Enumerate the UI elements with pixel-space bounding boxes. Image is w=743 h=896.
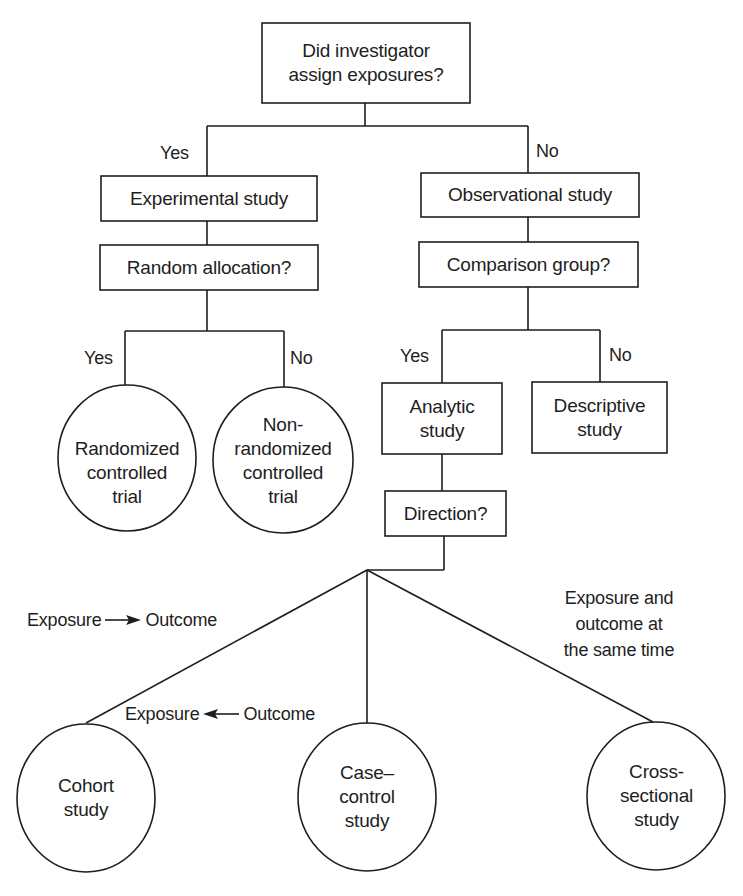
exposure-text: Exposure bbox=[27, 609, 101, 631]
comparison-group-box: Comparison group? bbox=[419, 242, 638, 287]
outcome-text: Outcome bbox=[243, 703, 315, 725]
non-randomized-controlled-trial-node: Non- randomized controlled trial bbox=[213, 387, 353, 533]
right-arrow-icon bbox=[104, 614, 142, 626]
outcome-text: Outcome bbox=[145, 609, 217, 631]
descriptive-study-box: Descriptive study bbox=[532, 382, 667, 453]
root-yes-label: Yes bbox=[160, 142, 189, 164]
outcome-to-exposure-label: Exposure Outcome bbox=[125, 703, 315, 725]
same-time-label: Exposure and outcome at the same time bbox=[549, 585, 689, 663]
random-allocation-box: Random allocation? bbox=[100, 245, 318, 290]
experimental-study-box: Experimental study bbox=[101, 176, 317, 221]
randomized-controlled-trial-node: Randomized controlled trial bbox=[58, 385, 196, 531]
cross-sectional-study-node: Cross- sectional study bbox=[587, 722, 726, 870]
cohort-study-node: Cohort study bbox=[17, 724, 155, 872]
analytic-study-box: Analytic study bbox=[382, 383, 502, 454]
random-no-label: No bbox=[290, 347, 313, 369]
random-yes-label: Yes bbox=[84, 347, 113, 369]
observational-study-box: Observational study bbox=[421, 173, 639, 217]
left-arrow-icon bbox=[202, 708, 240, 720]
exposure-text: Exposure bbox=[125, 703, 199, 725]
comparison-no-label: No bbox=[609, 344, 632, 366]
case-control-study-node: Case– control study bbox=[298, 723, 436, 871]
exposure-to-outcome-label: Exposure Outcome bbox=[27, 609, 217, 631]
root-question-box: Did investigator assign exposures? bbox=[262, 23, 470, 103]
root-no-label: No bbox=[536, 140, 559, 162]
direction-box: Direction? bbox=[385, 491, 506, 536]
comparison-yes-label: Yes bbox=[400, 345, 429, 367]
